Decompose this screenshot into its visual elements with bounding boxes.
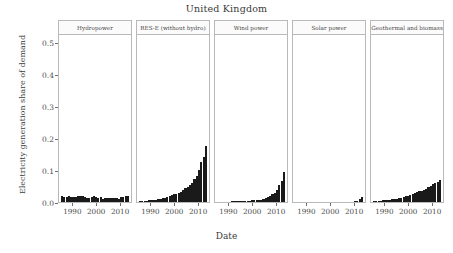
x-tick-mark [174, 203, 175, 206]
x-tick-label: 2000 [321, 207, 339, 216]
bar [283, 172, 285, 202]
x-tick-mark [120, 203, 121, 206]
x-tick-label: 2000 [243, 207, 261, 216]
bar-series [61, 35, 129, 202]
panel-row: Hydropower199020002010RES-E (without hyd… [58, 20, 444, 203]
bar-series [295, 35, 363, 202]
panel-title: Wind power [234, 25, 269, 31]
x-axis: 199020002010 [370, 203, 444, 225]
x-tick-label: 2010 [345, 207, 363, 216]
bar-series [373, 35, 441, 202]
bar [127, 196, 129, 202]
x-tick-mark [330, 203, 331, 206]
x-axis: 199020002010 [136, 203, 210, 225]
panel-title: Solar power [311, 25, 346, 31]
x-tick-mark [150, 203, 151, 206]
x-axis-label: Date [0, 231, 453, 241]
y-tick-label: 0.5 [42, 38, 54, 47]
panel-title: Hydropower [77, 25, 113, 31]
x-tick-label: 2000 [165, 207, 183, 216]
chart-title: United Kingdom [0, 3, 453, 14]
panel-title: RES-E (without hydro) [140, 25, 205, 31]
panel-plot-area [292, 34, 366, 203]
panel-strip-header: Solar power [292, 20, 366, 34]
x-tick-label: 1990 [297, 207, 315, 216]
x-tick-mark [228, 203, 229, 206]
x-tick-mark [276, 203, 277, 206]
x-tick-mark [252, 203, 253, 206]
y-tick-label: 0.1 [42, 166, 54, 175]
x-tick-mark [72, 203, 73, 206]
y-tick-label: 0.3 [42, 102, 54, 111]
panel-res-e-without-hydro: RES-E (without hydro)199020002010 [136, 20, 210, 203]
panel-solar-power: Solar power199020002010 [292, 20, 366, 203]
panel-strip-header: Geothermal and biomass [370, 20, 444, 34]
bar-series [217, 35, 285, 202]
panel-plot-area [136, 34, 210, 203]
bar [205, 146, 207, 202]
x-tick-mark [354, 203, 355, 206]
x-tick-label: 2010 [423, 207, 441, 216]
bar-series [139, 35, 207, 202]
panel-title: Geothermal and biomass [371, 25, 443, 31]
panel-plot-area [214, 34, 288, 203]
x-tick-label: 1990 [141, 207, 159, 216]
x-axis: 199020002010 [292, 203, 366, 225]
y-tick-label: 0.2 [42, 134, 54, 143]
y-tick-label: 0.0 [42, 199, 54, 208]
panel-strip-header: Wind power [214, 20, 288, 34]
x-tick-label: 2010 [189, 207, 207, 216]
panel-plot-area [58, 34, 132, 203]
x-tick-label: 2000 [399, 207, 417, 216]
x-tick-label: 2000 [87, 207, 105, 216]
x-tick-label: 2010 [267, 207, 285, 216]
panel-wind-power: Wind power199020002010 [214, 20, 288, 203]
chart-figure: United Kingdom Electricity generation sh… [0, 0, 453, 253]
x-tick-mark [306, 203, 307, 206]
y-tick-label: 0.4 [42, 70, 54, 79]
x-tick-label: 1990 [375, 207, 393, 216]
x-tick-label: 1990 [63, 207, 81, 216]
panel-plot-area [370, 34, 444, 203]
bar [361, 197, 363, 202]
panel-strip-header: RES-E (without hydro) [136, 20, 210, 34]
x-tick-mark [96, 203, 97, 206]
x-tick-mark [408, 203, 409, 206]
y-axis: 0.00.10.20.30.40.5 [30, 0, 58, 253]
x-tick-mark [432, 203, 433, 206]
x-axis: 199020002010 [214, 203, 288, 225]
panel-strip-header: Hydropower [58, 20, 132, 34]
x-tick-mark [198, 203, 199, 206]
panel-geothermal-and-biomass: Geothermal and biomass199020002010 [370, 20, 444, 203]
x-tick-mark [384, 203, 385, 206]
x-axis: 199020002010 [58, 203, 132, 225]
x-tick-label: 1990 [219, 207, 237, 216]
panel-hydropower: Hydropower199020002010 [58, 20, 132, 203]
bar [439, 180, 441, 202]
y-axis-label: Electricity generation share of demand [18, 30, 27, 200]
x-tick-label: 2010 [111, 207, 129, 216]
